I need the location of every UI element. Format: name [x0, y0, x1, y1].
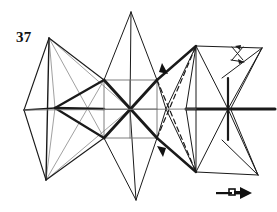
left-bay-bold-chord: [55, 108, 104, 109]
wireframe-drawing: [0, 0, 277, 212]
figure-number-label: 37: [16, 30, 31, 45]
figure-canvas: 37: [0, 0, 277, 212]
